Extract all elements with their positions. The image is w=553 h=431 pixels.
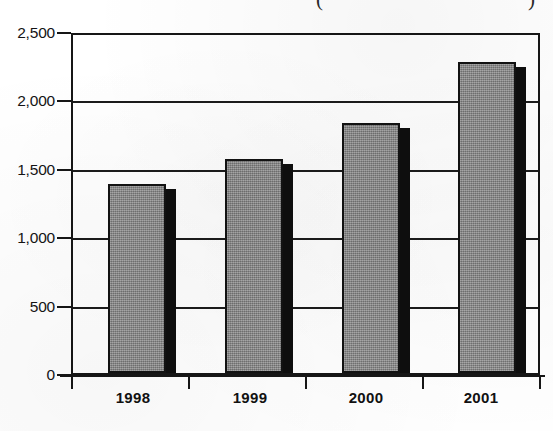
- x-axis-tick-3: [422, 375, 424, 389]
- bar-2000-face: [342, 123, 400, 373]
- bar-1998-face: [108, 184, 166, 373]
- y-axis-tick-1000: [57, 237, 71, 239]
- bar-1999-face: [225, 159, 283, 373]
- x-axis-line: [60, 375, 545, 377]
- x-axis-tick-end: [539, 375, 541, 389]
- y-axis-tick-500: [57, 306, 71, 308]
- title-paren-close: ): [528, 0, 535, 12]
- x-axis-label-2001: 2001: [464, 389, 499, 406]
- plot-area: [71, 33, 540, 375]
- y-axis-label-500: 500: [30, 298, 55, 316]
- x-axis-tick-2: [305, 375, 307, 389]
- chart-title-cropped: ( ): [0, 0, 553, 14]
- x-axis-label-1998: 1998: [116, 389, 151, 406]
- y-axis-tick-2000: [57, 100, 71, 102]
- x-axis-tick-1: [188, 375, 190, 389]
- bar-1998: [108, 184, 166, 373]
- bar-2001: [458, 62, 516, 373]
- y-axis-label-1000: 1,000: [17, 229, 55, 247]
- y-axis-tick-2500: [57, 32, 71, 34]
- x-axis-tick-start: [71, 375, 73, 389]
- bar-2000: [342, 123, 400, 373]
- y-axis-label-2000: 2,000: [17, 92, 55, 110]
- y-axis: 2,500 2,000 1,500 1,000 500 0: [0, 0, 71, 431]
- y-axis-label-2500: 2,500: [17, 24, 55, 42]
- y-axis-tick-1500: [57, 169, 71, 171]
- title-paren-open: (: [316, 0, 323, 12]
- x-axis-label-2000: 2000: [349, 389, 384, 406]
- bar-2001-face: [458, 62, 516, 373]
- bar-1999: [225, 159, 283, 373]
- y-axis-label-0: 0: [47, 366, 55, 384]
- y-axis-label-1500: 1,500: [17, 161, 55, 179]
- x-axis-label-1999: 1999: [233, 389, 268, 406]
- bar-chart-figure: ( ) 2,500 2,000 1,500 1,000 500 0: [0, 0, 553, 431]
